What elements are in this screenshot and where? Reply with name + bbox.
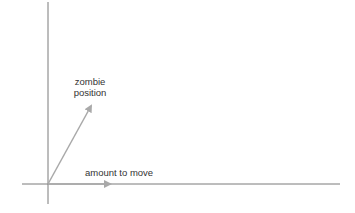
amount-to-move-label: amount to move — [85, 167, 153, 178]
zombie-label-line1: zombie — [68, 76, 112, 87]
zombie-position-label: zombie position — [68, 76, 112, 98]
zombie-label-line2: position — [68, 87, 112, 98]
vector-diagram: zombie position amount to move — [0, 0, 355, 213]
diagram-svg — [0, 0, 355, 213]
